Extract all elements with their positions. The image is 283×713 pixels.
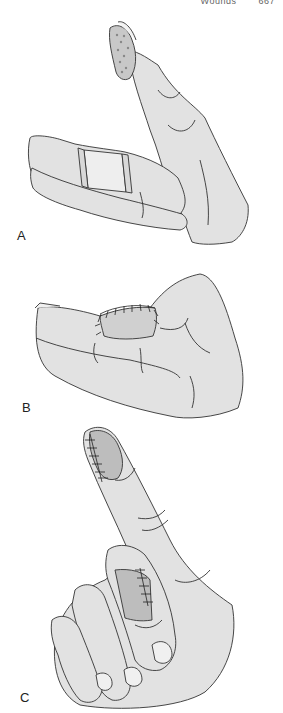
hand-illustration-a — [0, 0, 283, 248]
hand-illustration-c — [0, 420, 283, 713]
panel-label-c: C — [20, 690, 29, 705]
figure-panel-b: B — [0, 248, 283, 420]
figure-panel-a: A — [0, 0, 283, 248]
hand-illustration-b — [0, 248, 283, 420]
panel-label-b: B — [22, 400, 31, 415]
figure-panel-c: C — [0, 420, 283, 713]
panel-label-a: A — [17, 228, 26, 243]
